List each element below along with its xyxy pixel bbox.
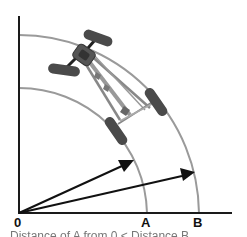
label-a: A	[141, 215, 150, 230]
origin-label: 0	[14, 215, 21, 230]
arc-a	[19, 88, 147, 213]
front-right-wheel	[82, 28, 114, 48]
rear-right-wheel	[143, 86, 170, 118]
turning-diagram	[0, 0, 247, 237]
arrow-to-a	[19, 160, 134, 213]
label-b: B	[193, 215, 202, 230]
front-left-wheel	[47, 63, 80, 77]
arrow-to-b	[19, 168, 195, 213]
caption: Distance of A from 0 < Distance B	[10, 229, 189, 237]
